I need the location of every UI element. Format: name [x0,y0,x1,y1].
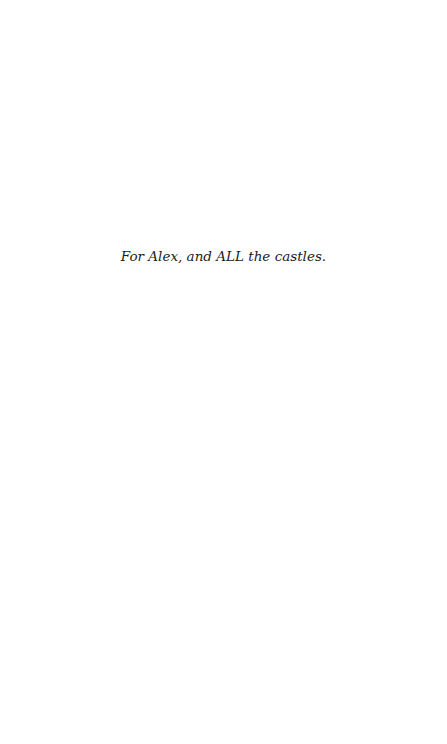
book-page: For Alex, and ALL the castles. [0,0,447,744]
dedication-text: For Alex, and ALL the castles. [0,246,447,266]
